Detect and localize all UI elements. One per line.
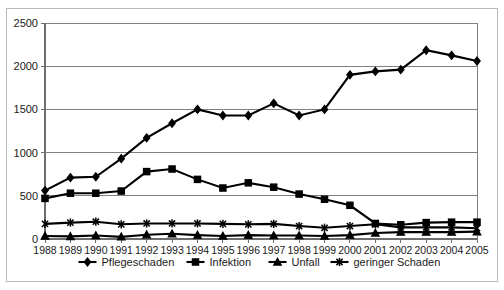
square-marker	[194, 176, 200, 182]
diamond-marker	[67, 174, 73, 182]
square-marker	[67, 190, 73, 196]
x-axis-tick-label: 2003	[414, 244, 438, 256]
square-marker	[144, 169, 150, 175]
square-marker	[245, 180, 251, 186]
chart-legend: PflegeschadenInfektionUnfallgeringer Sch…	[79, 256, 441, 268]
square-marker	[42, 195, 48, 201]
diamond-marker	[474, 57, 480, 65]
square-marker	[192, 259, 198, 265]
diamond-marker	[296, 112, 302, 120]
diamond-marker	[245, 112, 251, 120]
diamond-marker	[271, 99, 277, 107]
square-marker	[93, 190, 99, 196]
square-marker	[169, 166, 175, 172]
x-axis-tick-label: 1994	[186, 244, 210, 256]
y-axis-tick-label: 1500	[14, 103, 38, 115]
y-axis-tick-label: 1000	[14, 147, 38, 159]
x-axis-tick-label: 1998	[287, 244, 311, 256]
x-axis-tick-label: 1997	[262, 244, 286, 256]
x-axis-tick-label: 1999	[313, 244, 337, 256]
y-axis-tick-label: 500	[20, 190, 38, 202]
series-line	[45, 50, 477, 190]
x-axis-tick-label: 2005	[465, 244, 489, 256]
x-axis-tick-label: 1991	[110, 244, 134, 256]
diamond-marker	[448, 52, 454, 60]
series-line	[45, 232, 477, 237]
y-gridlines: 05001000150020002500	[14, 17, 477, 245]
triangle-marker	[245, 231, 252, 238]
square-marker	[296, 191, 302, 197]
x-axis-tick-label: 1996	[237, 244, 261, 256]
square-marker	[271, 184, 277, 190]
diamond-marker	[372, 67, 378, 75]
legend-item-pflegeschaden[interactable]: Pflegeschaden	[79, 256, 175, 268]
diamond-marker	[169, 119, 175, 127]
x-axis-tick-label: 2000	[338, 244, 362, 256]
legend-label: Infektion	[210, 256, 252, 268]
chart-frame: 0500100015002000250019881989199019911992…	[6, 8, 498, 282]
series-line	[45, 222, 477, 228]
x-axis-tick-label: 2001	[364, 244, 388, 256]
square-marker	[347, 202, 353, 208]
x-axis-tick-label: 1989	[59, 244, 83, 256]
y-axis-tick-label: 2500	[14, 17, 38, 29]
legend-label: geringer Schaden	[354, 256, 441, 268]
series-line	[45, 169, 477, 225]
diamond-marker	[42, 187, 48, 195]
diamond-marker	[220, 112, 226, 120]
y-axis-tick-label: 2000	[14, 60, 38, 72]
series-unfall	[41, 228, 480, 240]
square-marker	[118, 188, 124, 194]
x-axis-tick-label: 2002	[389, 244, 413, 256]
x-axis-tick-label: 1992	[135, 244, 159, 256]
legend-label: Unfall	[292, 256, 320, 268]
square-marker	[220, 185, 226, 191]
x-axis-labels: 1988198919901991199219931994199519961997…	[33, 239, 489, 256]
x-axis-tick-label: 1988	[33, 244, 57, 256]
x-axis-tick-label: 1993	[160, 244, 184, 256]
series-pflegeschaden	[42, 46, 480, 194]
square-marker	[321, 196, 327, 202]
line-chart: 0500100015002000250019881989199019911992…	[7, 9, 499, 283]
x-axis-tick-label: 1990	[84, 244, 108, 256]
legend-item-infektion[interactable]: Infektion	[187, 256, 252, 268]
x-axis-tick-label: 2004	[440, 244, 464, 256]
x-axis-tick-label: 1995	[211, 244, 235, 256]
diamond-marker	[84, 258, 90, 266]
legend-item-unfall[interactable]: Unfall	[269, 256, 320, 268]
series-infektion	[42, 166, 480, 228]
legend-item-geringer-schaden[interactable]: geringer Schaden	[331, 256, 441, 268]
series-geringer-schaden	[42, 218, 480, 233]
diamond-marker	[194, 106, 200, 114]
legend-label: Pflegeschaden	[102, 256, 175, 268]
triangle-marker	[274, 258, 281, 265]
